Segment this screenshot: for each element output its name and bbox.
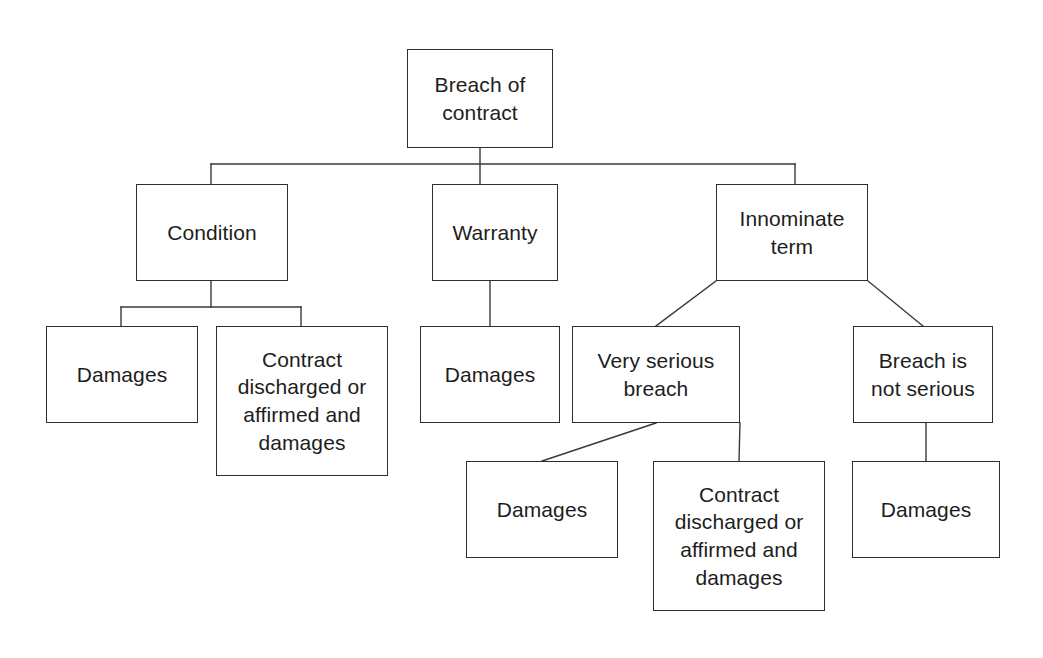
node-very-serious-contract-discharged: Contract discharged or affirmed and dama…	[653, 461, 825, 611]
node-label-very-serious-damages: Damages	[491, 496, 594, 524]
node-condition-damages: Damages	[46, 326, 198, 423]
node-label-root: Breach of contract	[429, 71, 532, 126]
node-root: Breach of contract	[407, 49, 553, 148]
edge-innominate-to-breach	[868, 281, 923, 326]
node-label-warranty: Warranty	[446, 219, 543, 247]
node-condition: Condition	[136, 184, 288, 281]
node-label-warranty-damages: Damages	[439, 361, 542, 389]
breach-of-contract-diagram: Breach of contractConditionWarrantyInnom…	[0, 0, 1043, 658]
node-label-innominate-term: Innominate term	[734, 205, 851, 260]
node-condition-contract-discharged: Contract discharged or affirmed and dama…	[216, 326, 388, 476]
node-breach-not-serious: Breach is not serious	[853, 326, 993, 423]
node-warranty: Warranty	[432, 184, 558, 281]
edge-very-to-damages	[542, 423, 656, 461]
node-label-condition: Condition	[161, 219, 263, 247]
node-breach-not-serious-damages: Damages	[852, 461, 1000, 558]
node-label-breach-not-serious-damages: Damages	[875, 496, 978, 524]
node-label-condition-contract-discharged: Contract discharged or affirmed and dama…	[232, 346, 373, 457]
node-label-very-serious-breach: Very serious breach	[592, 347, 721, 402]
edge-innominate-to-very	[656, 281, 716, 326]
node-warranty-damages: Damages	[420, 326, 560, 423]
node-very-serious-breach: Very serious breach	[572, 326, 740, 423]
node-label-breach-not-serious: Breach is not serious	[865, 347, 981, 402]
node-innominate-term: Innominate term	[716, 184, 868, 281]
node-label-very-serious-contract-discharged: Contract discharged or affirmed and dama…	[669, 481, 810, 592]
node-label-condition-damages: Damages	[71, 361, 174, 389]
node-very-serious-damages: Damages	[466, 461, 618, 558]
edge-very-to-contract	[739, 423, 740, 461]
